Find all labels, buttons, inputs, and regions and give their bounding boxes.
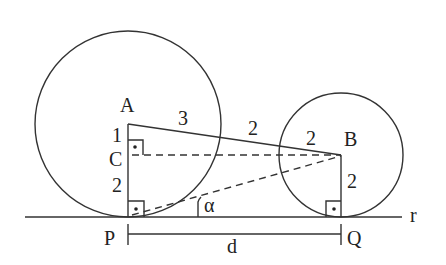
dashed-segment-PB: [132, 156, 341, 215]
label-C: C: [109, 148, 122, 170]
label-r: r: [410, 204, 417, 226]
label-Q: Q: [347, 227, 362, 249]
label-BQ-length: 2: [347, 170, 357, 192]
right-angle-mark-P: [128, 201, 144, 217]
label-CP-length: 2: [112, 174, 122, 196]
label-B: B: [344, 128, 357, 150]
angle-alpha-arc: [198, 197, 201, 217]
label-alpha: α: [204, 194, 215, 216]
geometry-diagram: A B C P Q r 1 2 3 2 2 2 d α: [0, 0, 446, 265]
label-AC-length: 1: [112, 124, 122, 146]
label-circle-B-length: 2: [306, 127, 316, 149]
label-circle-circle-length: 2: [248, 117, 258, 139]
label-A: A: [120, 94, 135, 116]
label-d: d: [227, 235, 237, 257]
label-A-circle-length: 3: [178, 107, 188, 129]
right-angle-mark-C: [128, 140, 143, 155]
right-angle-mark-Q: [326, 201, 341, 217]
label-P: P: [104, 227, 115, 249]
